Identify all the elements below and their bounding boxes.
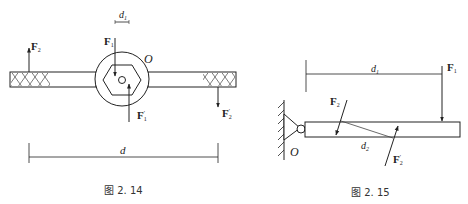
figure-2-15 <box>278 60 460 166</box>
label-F1-prime: F1′ <box>137 110 145 122</box>
label-O: O <box>144 53 153 65</box>
label-F1-2: F1 <box>447 62 457 74</box>
label-F2-prime-2: F2′ <box>393 154 401 166</box>
label-d1: d1 <box>119 10 127 21</box>
label-d2: d2 <box>361 141 369 152</box>
label-O-2: O <box>290 146 299 158</box>
caption-fig-2-14: 图 2. 14 <box>104 182 143 197</box>
bolt-hole <box>119 77 126 84</box>
right-grip-hatch <box>203 73 235 86</box>
label-d: d <box>120 145 126 156</box>
label-d1-2: d1 <box>371 64 379 75</box>
figure-2-14 <box>10 22 236 163</box>
diagram-canvas <box>0 0 468 204</box>
caption-fig-2-15: 图 2. 15 <box>351 184 390 199</box>
label-F2-2: F2 <box>330 96 340 108</box>
pin-joint <box>297 125 305 133</box>
left-grip-hatch <box>11 73 50 86</box>
label-F1: F1 <box>104 36 114 48</box>
label-F2-prime: F2′ <box>222 108 230 120</box>
label-F2: F2 <box>31 41 41 53</box>
